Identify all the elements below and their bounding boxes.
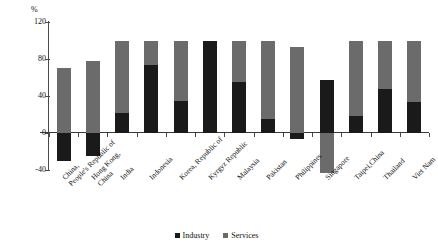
y-tick-mark bbox=[45, 170, 50, 171]
legend-swatch-icon bbox=[223, 233, 228, 238]
chart-legend: IndustryServices bbox=[0, 231, 433, 241]
legend-item: Services bbox=[223, 231, 258, 241]
bar-segment-industry bbox=[407, 102, 421, 133]
bar-segment-services bbox=[86, 61, 100, 133]
bar-segment-industry bbox=[261, 119, 275, 133]
legend-label: Services bbox=[231, 231, 258, 241]
bar-segment-industry bbox=[378, 89, 392, 133]
bar-column bbox=[290, 22, 304, 170]
y-tick-label: -40 bbox=[24, 166, 46, 174]
bar-segment-services bbox=[144, 41, 158, 66]
bar-column bbox=[57, 22, 71, 170]
bar-segment-industry bbox=[203, 41, 217, 134]
bar-column bbox=[144, 22, 158, 170]
bar-segment-industry bbox=[115, 113, 129, 133]
y-tick-label: 40 bbox=[24, 92, 46, 100]
bar-segment-services bbox=[232, 41, 246, 83]
bar-segment-industry bbox=[144, 65, 158, 133]
legend-item: Industry bbox=[175, 231, 210, 241]
bar-column bbox=[115, 22, 129, 170]
bar-segment-industry bbox=[320, 80, 334, 133]
y-tick-label: 120 bbox=[24, 18, 46, 26]
x-tick-mark bbox=[429, 133, 430, 137]
bar-segment-services bbox=[378, 41, 392, 89]
legend-label: Industry bbox=[183, 231, 210, 241]
bar-segment-industry bbox=[174, 101, 188, 133]
bar-column bbox=[407, 22, 421, 170]
bar-segment-services bbox=[407, 41, 421, 103]
bar-segment-industry bbox=[349, 116, 363, 133]
bar-column bbox=[174, 22, 188, 170]
bar-segment-industry bbox=[232, 82, 246, 133]
bar-segment-services bbox=[290, 47, 304, 133]
bar-column bbox=[320, 22, 334, 170]
bar-segment-industry bbox=[57, 133, 71, 161]
bar-column bbox=[261, 22, 275, 170]
y-tick-label: 0 bbox=[24, 129, 46, 137]
bar-segment-services bbox=[174, 41, 188, 101]
bar-column bbox=[349, 22, 363, 170]
y-tick-label: 80 bbox=[24, 55, 46, 63]
legend-swatch-icon bbox=[175, 233, 180, 238]
bar-segment-services bbox=[349, 41, 363, 117]
bar-segment-services bbox=[57, 68, 71, 133]
bar-segment-services bbox=[261, 41, 275, 120]
bar-segment-industry bbox=[290, 133, 304, 139]
bar-column bbox=[378, 22, 392, 170]
bar-segment-services bbox=[115, 41, 129, 113]
y-axis-unit-label: % bbox=[31, 5, 38, 15]
